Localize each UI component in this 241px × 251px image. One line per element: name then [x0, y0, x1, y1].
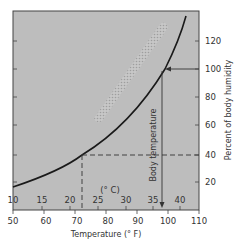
svg-text:60: 60: [41, 216, 52, 226]
svg-text:20: 20: [205, 177, 216, 187]
svg-text:100: 100: [160, 216, 176, 226]
svg-text:80: 80: [103, 216, 114, 226]
fahrenheit-tick-labels: 50 60 70 80 90 100 110: [8, 216, 208, 226]
fahrenheit-ticks: [13, 210, 199, 214]
svg-text:20: 20: [65, 195, 76, 205]
svg-text:10: 10: [8, 195, 19, 205]
y-tick-labels: 120 100 80 60 40 20: [205, 36, 221, 187]
svg-text:50: 50: [8, 216, 19, 226]
svg-text:30: 30: [121, 195, 132, 205]
svg-text:100: 100: [205, 64, 221, 74]
y-axis-title: Percent of body humidity: [224, 59, 233, 160]
svg-text:80: 80: [205, 92, 216, 102]
svg-text:90: 90: [133, 216, 144, 226]
svg-text:60: 60: [205, 120, 216, 130]
svg-text:70: 70: [72, 216, 83, 226]
svg-text:120: 120: [205, 36, 221, 46]
body-temperature-label: Body temperature: [149, 108, 158, 181]
svg-text:35: 35: [148, 195, 159, 205]
svg-text:25: 25: [93, 195, 104, 205]
x-axis-title: Temperature (° F): [70, 230, 142, 239]
svg-text:110: 110: [191, 216, 207, 226]
svg-text:15: 15: [37, 195, 48, 205]
humidity-chart: Body temperature 120 100 80 60 40 20 Per…: [0, 0, 241, 251]
celsius-unit-label: (° C): [100, 185, 120, 195]
svg-text:40: 40: [175, 195, 186, 205]
svg-text:40: 40: [205, 150, 216, 160]
